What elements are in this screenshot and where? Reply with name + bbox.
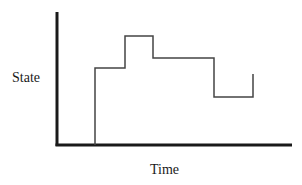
state-step-line bbox=[95, 36, 253, 145]
state-time-diagram: State Time bbox=[0, 0, 302, 185]
diagram-svg bbox=[0, 0, 302, 185]
y-axis-label: State bbox=[12, 70, 40, 86]
x-axis-label: Time bbox=[150, 162, 179, 178]
